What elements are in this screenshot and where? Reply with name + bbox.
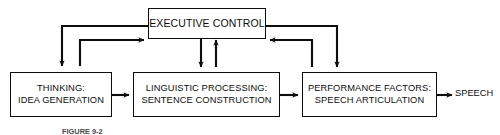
node-thinking-label-line2: IDEA GENERATION: [18, 95, 104, 106]
node-linguistic-processing-label-line2: SENTENCE CONSTRUCTION: [141, 95, 271, 106]
node-executive-control: EXECUTIVE CONTROL: [148, 8, 266, 39]
node-performance-factors: PERFORMANCE FACTORS: SPEECH ARTICULATION: [302, 72, 437, 117]
node-executive-control-label: EXECUTIVE CONTROL: [149, 17, 264, 30]
figure-caption: FIGURE 9-2: [62, 127, 103, 135]
edge-executive-to-thinking: [62, 26, 148, 66]
node-thinking: THINKING: IDEA GENERATION: [10, 72, 112, 117]
speech-output-label: SPEECH: [455, 88, 493, 98]
figure-diagram: EXECUTIVE CONTROL THINKING: IDEA GENERAT…: [0, 0, 500, 135]
edge-performance-to-executive: [270, 40, 312, 67]
node-linguistic-processing-label-line1: LINGUISTIC PROCESSING:: [146, 83, 268, 94]
edge-executive-to-performance: [266, 26, 337, 67]
edge-thinking-to-executive: [80, 40, 144, 66]
node-performance-factors-label-line1: PERFORMANCE FACTORS:: [308, 83, 431, 94]
node-performance-factors-label-line2: SPEECH ARTICULATION: [315, 95, 425, 106]
node-linguistic-processing: LINGUISTIC PROCESSING: SENTENCE CONSTRUC…: [133, 72, 280, 117]
node-thinking-label-line1: THINKING:: [37, 83, 85, 94]
